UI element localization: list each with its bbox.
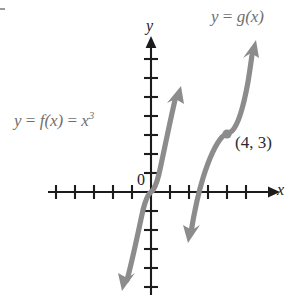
curve-f-label-y: y — [14, 111, 22, 130]
graph-canvas — [0, 0, 301, 305]
x-axis-label: x — [277, 182, 284, 198]
curve-f-label-eq2: = — [63, 111, 81, 130]
curve-g-label-g: g — [237, 7, 246, 26]
origin-label: 0 — [137, 172, 145, 188]
curve-f-label-x: x — [81, 111, 89, 130]
math-figure-cubic-transformation: y = f(x) = x3 y = g(x) (4, 3) y x 0 — [0, 0, 301, 305]
curve-f-label-arg: (x) — [44, 111, 63, 130]
curve-f-label-exponent: 3 — [89, 110, 94, 121]
curve-g-label: y = g(x) — [211, 8, 264, 25]
point-coordinate-label: (4, 3) — [235, 134, 272, 151]
y-axis-arrowhead — [146, 36, 157, 48]
inflection-point-marker — [222, 129, 231, 138]
curve-f-label: y = f(x) = x3 — [14, 112, 94, 129]
y-axis-label: y — [146, 18, 153, 34]
curve-g-label-eq: = — [219, 7, 237, 26]
curve-f-label-eq1: = — [22, 111, 40, 130]
curve-g-label-y: y — [211, 7, 219, 26]
curve-g-label-arg: (x) — [245, 7, 264, 26]
